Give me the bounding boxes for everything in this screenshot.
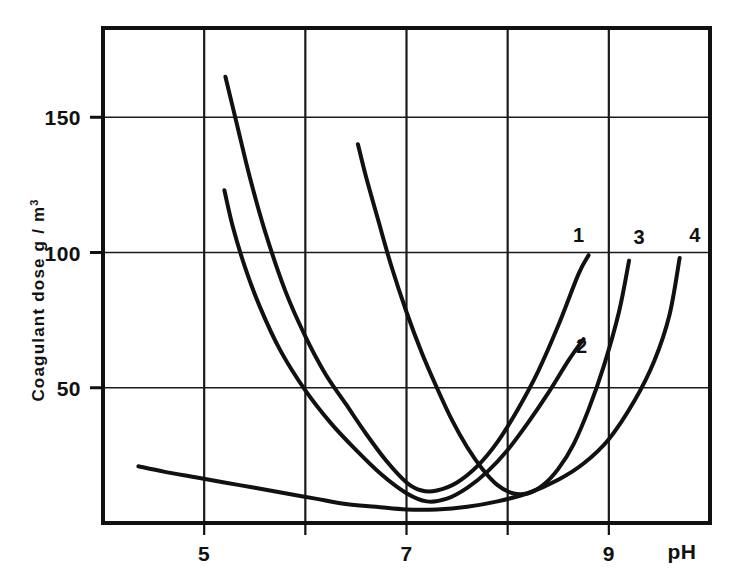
x-tick-label: 9 [603,542,615,565]
series-label: 1 [573,224,584,246]
coagulant-dose-vs-ph-chart: 579 50100150 1234 pH Coagulant dose g / … [0,0,746,583]
y-axis-title-exponent: 3 [28,198,40,205]
chart-background [0,0,746,583]
x-axis-title: pH [668,540,697,563]
x-tick-label: 7 [400,542,412,565]
y-axis-title-main: Coagulant dose g / m [29,206,48,402]
y-axis-title: Coagulant dose g / m3 [28,198,48,401]
y-tick-label: 150 [44,106,81,129]
series-label: 3 [634,226,645,248]
x-tick-label: 5 [198,542,210,565]
y-tick-label: 50 [57,377,81,400]
y-axis-title-group: Coagulant dose g / m3 [28,198,48,401]
series-label: 4 [689,224,701,246]
y-tick-label: 100 [44,242,81,265]
series-label: 2 [576,335,587,357]
